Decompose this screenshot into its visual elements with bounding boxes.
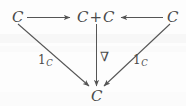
label-fold-map-nabla-icon: ∇ bbox=[100, 50, 109, 63]
coproduct-left-operand: C bbox=[77, 8, 88, 26]
coproduct-operator-icon: + bbox=[88, 8, 103, 26]
identity-subscript: C bbox=[141, 58, 148, 68]
identity-subscript: C bbox=[46, 58, 53, 68]
commutative-diagram-canvas: C C+C C C 1C ∇ 1C bbox=[0, 0, 186, 106]
node-top-left-object: C bbox=[12, 10, 23, 25]
label-left-identity: 1C bbox=[38, 54, 53, 67]
edge-left-identity bbox=[18, 24, 89, 86]
label-right-identity: 1C bbox=[133, 54, 148, 67]
identity-numeral: 1 bbox=[133, 53, 141, 67]
node-top-right-object: C bbox=[167, 10, 178, 25]
node-coproduct-object: C+C bbox=[77, 10, 115, 25]
coproduct-right-operand: C bbox=[103, 8, 114, 26]
node-bottom-object: C bbox=[91, 89, 102, 104]
identity-numeral: 1 bbox=[38, 53, 46, 67]
